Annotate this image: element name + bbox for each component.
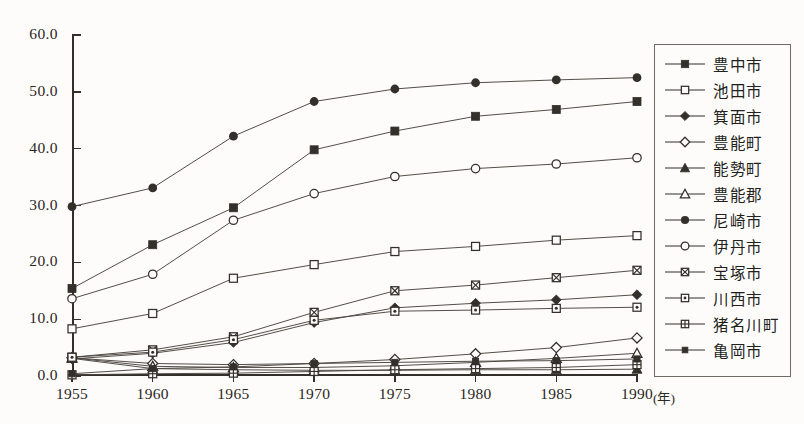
marker-small-square [682,347,688,353]
legend-marker-filled-triangle [664,161,706,175]
legend-item-1[interactable]: 池田市 [655,77,790,103]
marker-small-square [150,366,156,372]
x-axis-unit-label: (年) [653,387,675,407]
legend-item-label: 豊能郡 [713,183,763,205]
plot-area: 60.050.040.030.020.010.00.0 195519601965… [72,35,637,376]
marker-open-diamond [551,342,561,352]
legend-item-5[interactable]: 豊能郡 [655,181,790,207]
marker-open-square [552,236,560,244]
marker-filled-circle [229,132,238,141]
marker-filled-circle [390,85,399,94]
marker-small-square [634,356,640,362]
marker-filled-square [391,127,399,135]
legend-item-10[interactable]: 猪名川町 [655,311,790,337]
marker-filled-circle [471,78,480,87]
chart-figure: 60.050.040.030.020.010.00.0 195519601965… [0,0,804,424]
marker-filled-diamond [632,290,642,300]
legend-item-4[interactable]: 能勢町 [655,155,790,181]
series-0 [68,97,641,292]
marker-dotted-square [229,336,237,344]
marker-dotted-square [149,348,157,356]
legend-marker-open-square [664,83,706,97]
marker-dotted-square [472,306,480,314]
legend-marker-crossed-square [664,265,706,279]
marker-filled-square [149,241,157,249]
y-tick-label: 20.0 [29,252,58,270]
marker-dotted-square [68,353,76,361]
marker-open-square [472,242,480,250]
marker-filled-square [472,112,480,120]
legend-item-label: 尼崎市 [713,209,763,231]
marker-small-square [230,364,236,370]
marker-small-square [69,371,75,377]
legend-marker-dotted-square [664,291,706,305]
marker-filled-square [681,60,688,67]
marker-open-square [229,274,237,282]
marker-open-square [633,232,641,240]
marker-small-square [472,358,478,364]
marker-crossed-square [310,308,318,316]
marker-open-circle [68,295,76,303]
marker-open-circle [229,216,237,224]
legend-item-9[interactable]: 川西市 [655,285,790,311]
marker-dotted-square [633,303,641,311]
legend-item-2[interactable]: 箕面市 [655,103,790,129]
chart-legend: 豊中市池田市箕面市豊能町能勢町豊能郡尼崎市伊丹市宝塚市川西市猪名川町亀岡市 [654,44,791,377]
marker-filled-circle [68,202,77,211]
marker-filled-diamond [551,295,561,305]
marker-dotted-square [391,307,399,315]
legend-marker-open-diamond [664,135,706,149]
x-tick-label: 1965 [217,385,249,403]
legend-item-label: 能勢町 [713,157,763,179]
legend-item-label: 箕面市 [713,105,763,127]
legend-item-label: 池田市 [713,79,763,101]
marker-open-circle [391,172,399,180]
x-tick-label: 1960 [137,385,169,403]
series-layer [72,35,637,376]
marker-filled-circle [681,216,689,224]
marker-gridded-square [472,365,480,373]
legend-item-3[interactable]: 豊能町 [655,129,790,155]
marker-gridded-square [310,367,318,375]
legend-item-label: 川西市 [713,287,763,309]
y-tick-label: 60.0 [29,25,58,43]
legend-item-0[interactable]: 豊中市 [655,51,790,77]
marker-open-circle [633,154,641,162]
marker-open-square [681,86,688,93]
marker-open-circle [681,242,689,250]
marker-crossed-square [552,274,560,282]
marker-dotted-square [681,294,688,301]
legend-item-7[interactable]: 伊丹市 [655,233,790,259]
marker-small-square [553,358,559,364]
x-tick-label: 1985 [540,385,572,403]
marker-open-diamond [680,137,690,147]
marker-open-square [68,325,76,333]
marker-small-square [392,359,398,365]
marker-filled-square [68,284,76,292]
legend-item-label: 亀岡市 [713,339,763,361]
marker-dotted-square [310,316,318,324]
marker-crossed-square [633,266,641,274]
legend-item-8[interactable]: 宝塚市 [655,259,790,285]
legend-item-6[interactable]: 尼崎市 [655,207,790,233]
y-tick-label: 10.0 [29,309,58,327]
legend-item-label: 豊中市 [713,53,763,75]
legend-marker-gridded-square [664,317,706,331]
marker-gridded-square [552,363,560,371]
marker-filled-circle [310,97,319,106]
marker-crossed-square [472,281,480,289]
marker-filled-diamond [680,111,689,120]
legend-item-label: 伊丹市 [713,235,763,257]
x-tick-label: 1990 [621,385,653,403]
x-tick-label: 1970 [298,385,330,403]
marker-filled-circle [633,73,642,82]
legend-item-label: 豊能町 [713,131,763,153]
marker-crossed-square [391,287,399,295]
legend-item-11[interactable]: 亀岡市 [655,337,790,363]
marker-small-square [311,360,317,366]
marker-open-circle [149,270,157,278]
marker-filled-circle [148,183,157,192]
marker-dotted-square [552,304,560,312]
marker-open-circle [471,164,479,172]
marker-filled-square [552,105,560,113]
